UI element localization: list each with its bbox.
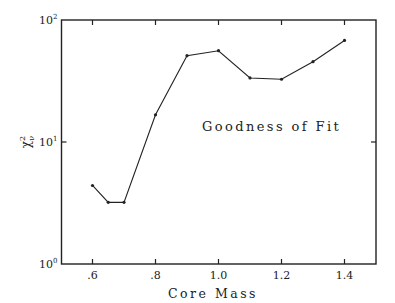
y-tick-label: 100 (39, 257, 57, 271)
data-point (107, 201, 110, 204)
data-point (343, 39, 346, 42)
plot-frame (62, 20, 377, 264)
x-tick-label: 1.2 (273, 269, 291, 282)
x-tick-label: .6 (87, 269, 98, 282)
data-point (217, 49, 220, 52)
x-tick-label: 1.0 (210, 269, 228, 282)
data-point (154, 113, 157, 116)
data-point (91, 184, 94, 187)
x-axis-title: Core Mass (168, 286, 258, 301)
x-tick-label: .8 (150, 269, 161, 282)
x-axis-ticks: .6.81.01.21.4 (87, 20, 353, 282)
y-axis-ticks: 100101102 (39, 13, 376, 271)
goodness-of-fit-chart: .6.81.01.21.4 100101102 Goodness of Fit … (0, 0, 395, 303)
data-point (311, 60, 314, 63)
y-axis-title-text: χ2ν (18, 136, 36, 148)
y-tick-label: 101 (39, 135, 57, 149)
chart-annotation: Goodness of Fit (202, 119, 341, 134)
data-point (185, 54, 188, 57)
data-point (248, 76, 251, 79)
y-axis-title: χ2ν (18, 136, 36, 148)
data-point (280, 78, 283, 81)
y-tick-label: 102 (39, 13, 57, 27)
data-point (122, 201, 125, 204)
x-tick-label: 1.4 (336, 269, 354, 282)
